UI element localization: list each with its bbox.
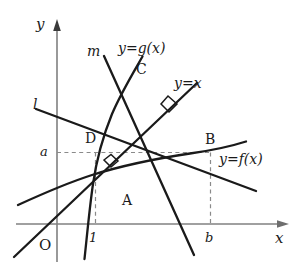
x-tick-1: 1 [89,231,97,244]
line-label-l: l [33,97,37,111]
y-tick-a: a [40,145,48,158]
origin-label: O [39,238,51,253]
y-axis-arrow [53,19,61,31]
line-label-m: m [87,44,100,58]
y-axis-label: y [36,17,44,32]
x-axis-label: x [275,231,283,246]
point-label-C: C [136,62,147,76]
point-label-D: D [85,131,96,145]
curve-label-g: y=g(x) [118,41,165,55]
point-label-B: B [205,132,215,146]
point-label-A: A [122,193,132,207]
line-identity [14,83,197,257]
x-tick-b: b [205,231,213,244]
curve-label-f: y=f(x) [219,152,263,166]
math-diagram-figure: y x O 1 b a y=g(x) y=x y=f(x) l m A B C … [0,0,296,272]
x-axis-arrow [277,220,289,228]
curve-label-identity: y=x [174,76,202,90]
